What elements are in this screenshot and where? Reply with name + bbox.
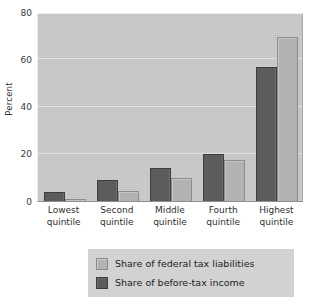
x-axis-label-line1: Second	[100, 205, 133, 215]
bar-before-tax-income	[44, 192, 65, 201]
x-axis-label-line2: quintile	[37, 217, 90, 229]
x-axis-label: Fourthquintile	[197, 205, 250, 228]
bar-federal-tax-liabilities	[65, 199, 86, 201]
x-axis-label-line2: quintile	[90, 217, 143, 229]
y-tick-label: 20	[12, 150, 32, 159]
bar-group	[97, 14, 139, 201]
bar-group	[44, 14, 86, 201]
y-tick-label: 60	[12, 56, 32, 65]
bar-before-tax-income	[97, 180, 118, 201]
x-axis-label-line2: quintile	[250, 217, 303, 229]
x-axis-label-line2: quintile	[197, 217, 250, 229]
legend-label: Share of before-tax income	[115, 277, 245, 288]
bar-federal-tax-liabilities	[171, 178, 192, 201]
x-axis-label: Middlequintile	[143, 205, 196, 228]
x-axis-label-line1: Lowest	[48, 205, 79, 215]
bar-chart-figure: Percent 020406080 LowestquintileSecondqu…	[0, 0, 314, 305]
y-tick-label: 80	[12, 9, 32, 18]
x-axis-label: Secondquintile	[90, 205, 143, 228]
legend-swatch-light	[96, 258, 108, 270]
chart-legend: Share of federal tax liabilitiesShare of…	[88, 249, 294, 297]
legend-label: Share of federal tax liabilities	[115, 258, 254, 269]
bar-group	[256, 14, 298, 201]
plot-area	[37, 13, 303, 202]
x-axis-label: Lowestquintile	[37, 205, 90, 228]
x-axis-label: Highestquintile	[250, 205, 303, 228]
y-axis-tick-labels: 020406080	[8, 0, 32, 305]
legend-swatch-dark	[96, 277, 108, 289]
bar-before-tax-income	[256, 67, 277, 201]
x-axis-label-line1: Middle	[155, 205, 185, 215]
x-axis-label-line2: quintile	[143, 217, 196, 229]
bars-layer	[38, 14, 302, 201]
x-axis-category-labels: LowestquintileSecondquintileMiddlequinti…	[37, 205, 303, 239]
bar-federal-tax-liabilities	[277, 37, 298, 201]
x-axis-label-line1: Fourth	[209, 205, 238, 215]
bar-group	[203, 14, 245, 201]
bar-federal-tax-liabilities	[224, 160, 245, 201]
bar-before-tax-income	[150, 168, 171, 201]
y-tick-label: 0	[12, 198, 32, 207]
x-axis-label-line1: Highest	[259, 205, 293, 215]
legend-item: Share of before-tax income	[96, 273, 294, 292]
legend-item: Share of federal tax liabilities	[96, 254, 294, 273]
bar-federal-tax-liabilities	[118, 191, 139, 201]
y-tick-label: 40	[12, 103, 32, 112]
bar-group	[150, 14, 192, 201]
bar-before-tax-income	[203, 154, 224, 201]
